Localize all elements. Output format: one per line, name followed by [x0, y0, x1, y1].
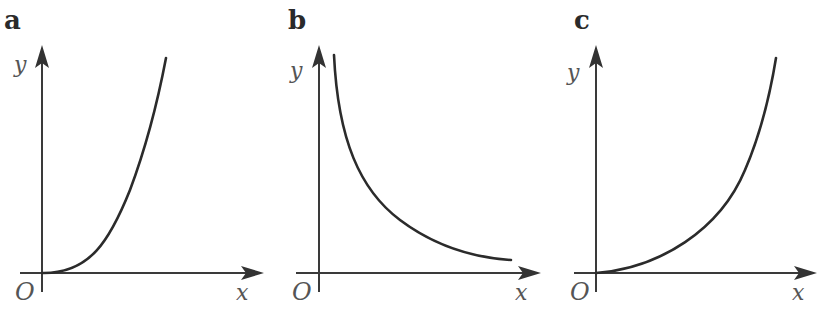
curve-a — [42, 58, 166, 273]
curve-b — [334, 55, 511, 260]
panel-b: b y x O — [288, 5, 541, 306]
curve-c — [596, 58, 776, 273]
y-axis-label: y — [566, 60, 580, 85]
function-graphs-figure: a y x O b y x O c y x O — [0, 0, 817, 310]
panel-label-c: c — [574, 5, 590, 35]
x-axis-label: x — [236, 280, 249, 305]
origin-label: O — [570, 278, 590, 306]
x-axis-label: x — [515, 280, 528, 305]
panel-c: c y x O — [566, 5, 817, 306]
panel-label-a: a — [4, 5, 21, 35]
origin-label: O — [15, 278, 35, 306]
y-axis-label: y — [289, 58, 303, 83]
panel-a: a y x O — [4, 5, 264, 306]
panel-label-b: b — [288, 5, 306, 35]
x-axis-label: x — [792, 280, 805, 305]
origin-label: O — [292, 278, 312, 306]
y-axis-label: y — [13, 52, 27, 77]
